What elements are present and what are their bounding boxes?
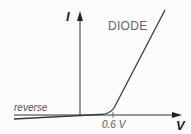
y-axis-label: I (66, 10, 70, 23)
diagram-title: DIODE (108, 20, 148, 32)
x-axis-label: V (176, 119, 185, 132)
reverse-region-label: reverse (14, 103, 47, 113)
diode-iv-diagram: I V DIODE reverse 0.6 V (0, 0, 191, 134)
y-axis-arrow-icon (77, 11, 83, 21)
threshold-tick-label: 0.6 V (102, 120, 125, 130)
plot-area (0, 0, 191, 134)
